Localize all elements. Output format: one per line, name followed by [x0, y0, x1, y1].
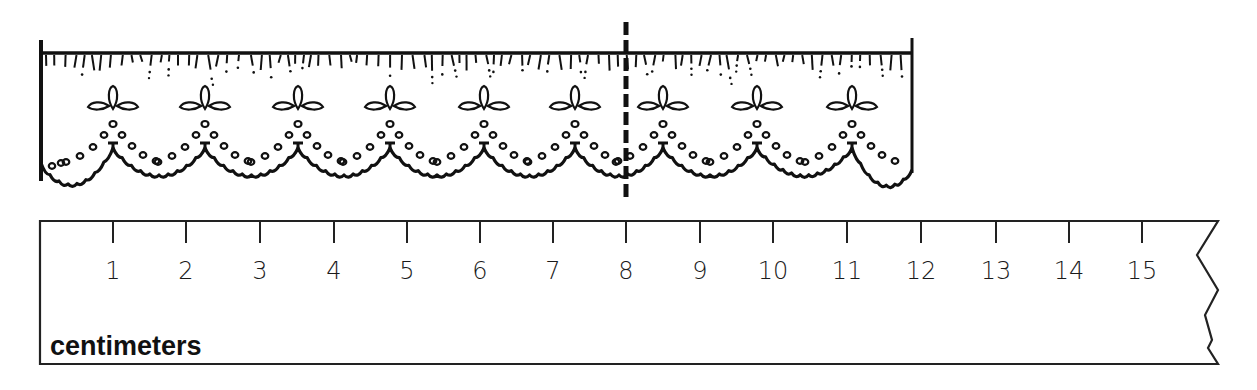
- fringe-dot: [289, 70, 292, 73]
- fringe-stroke: [74, 55, 76, 68]
- fringe-dot: [730, 83, 732, 85]
- fringe-dot: [729, 77, 732, 80]
- fringe-dot: [646, 73, 649, 76]
- fringe-dot: [690, 67, 693, 70]
- fringe-stroke: [528, 55, 530, 65]
- fringe-stroke: [783, 55, 785, 62]
- fringe-stroke: [509, 55, 511, 64]
- fringe-stroke: [279, 55, 281, 63]
- fringe-stroke: [737, 55, 738, 61]
- fringe-stroke: [681, 55, 683, 66]
- fringe-stroke: [329, 55, 330, 66]
- fringe-stroke: [821, 55, 822, 66]
- fringe-dot: [492, 71, 495, 74]
- fringe-dot: [583, 77, 585, 79]
- fringe-dot: [167, 68, 170, 71]
- fringe-dot: [431, 76, 434, 79]
- ruler-tick-label: 13: [981, 257, 1012, 285]
- fringe-dot: [488, 69, 491, 72]
- fringe-stroke: [356, 55, 357, 63]
- fringe-dot: [270, 76, 273, 79]
- fringe-stroke: [663, 55, 664, 62]
- ruler-tick-label: 8: [618, 257, 633, 285]
- fringe-stroke: [92, 55, 94, 70]
- fringe-stroke: [609, 55, 610, 71]
- fringe-dot: [489, 75, 491, 77]
- ruler-unit-label: centimeters: [50, 331, 202, 361]
- fringe-stroke: [832, 55, 834, 66]
- ruler-tick-label: 14: [1054, 257, 1085, 285]
- lace-ruler-diagram: 123456789101112131415 centimeters: [0, 0, 1257, 390]
- fringe-dot: [580, 71, 583, 74]
- fringe-dot: [148, 71, 151, 74]
- ruler-tick-label: 6: [472, 257, 487, 285]
- fringe-dot: [735, 70, 737, 72]
- fringe-dot: [454, 69, 457, 72]
- fringe-dot: [546, 70, 549, 73]
- fringe-stroke: [413, 55, 415, 69]
- ruler-tick-label: 15: [1127, 257, 1158, 285]
- fringe-stroke: [150, 55, 151, 66]
- fringe-stroke: [559, 55, 561, 70]
- fringe-stroke: [424, 55, 426, 67]
- fringe-stroke: [765, 55, 766, 62]
- fringe-dot: [455, 75, 457, 77]
- fringe-dot: [735, 64, 738, 67]
- ruler-tick-label: 5: [399, 257, 414, 285]
- fringe-stroke: [288, 55, 290, 66]
- fringe-stroke: [709, 55, 712, 66]
- lace-trim: [41, 38, 912, 188]
- ruler-tick-label: 2: [178, 257, 193, 285]
- fringe-stroke: [238, 55, 239, 61]
- fringe-stroke: [208, 55, 210, 70]
- fringe-stroke: [309, 55, 311, 67]
- fringe-dot: [210, 77, 213, 80]
- fringe-dot: [651, 70, 654, 73]
- fringe-stroke: [501, 55, 502, 66]
- fringe-stroke: [548, 55, 549, 65]
- fringe-stroke: [251, 55, 253, 66]
- fringe-stroke: [539, 55, 541, 70]
- fringe-stroke: [367, 55, 368, 65]
- fringe-stroke: [720, 55, 721, 65]
- fringe-stroke: [341, 55, 342, 68]
- fringe-stroke: [756, 55, 757, 61]
- fringe-dot: [148, 77, 150, 79]
- fringe-stroke: [83, 55, 85, 68]
- fringe-dot: [819, 70, 822, 73]
- fringe-dot: [749, 68, 752, 71]
- fringe-stroke: [644, 55, 646, 65]
- fringe-stroke: [840, 55, 841, 65]
- fringe-stroke: [653, 55, 655, 65]
- fringe-stroke: [452, 55, 454, 66]
- fringe-stroke: [901, 55, 902, 70]
- fringe-dot: [901, 75, 904, 78]
- fringe-stroke: [261, 55, 262, 70]
- fringe-dot: [301, 67, 304, 70]
- fringe-stroke: [122, 55, 123, 66]
- ruler-tick-label: 12: [906, 257, 937, 285]
- fringe-dot: [441, 73, 444, 76]
- fringe-dot: [167, 74, 169, 76]
- fringe-dot: [859, 66, 862, 69]
- fringe-dot: [819, 76, 821, 78]
- fringe-stroke: [776, 55, 778, 66]
- ruler-tick-label: 3: [252, 257, 267, 285]
- lace-fringe: [46, 55, 903, 86]
- fringe-stroke: [132, 55, 133, 63]
- fringe-stroke: [747, 55, 749, 64]
- fringe-dot: [882, 75, 884, 77]
- fringe-dot: [690, 74, 692, 76]
- fringe-dot: [252, 71, 255, 74]
- fringe-stroke: [270, 55, 271, 68]
- fringe-stroke: [812, 55, 813, 70]
- fringe-stroke: [110, 55, 111, 68]
- fringe-stroke: [881, 55, 882, 65]
- fringe-stroke: [586, 55, 588, 64]
- ruler-tick-label: 10: [758, 257, 789, 285]
- fringe-stroke: [196, 55, 198, 68]
- fringe-dot: [720, 73, 723, 76]
- fringe-dot: [584, 71, 587, 74]
- fringe-dot: [237, 66, 240, 69]
- fringe-dot: [389, 74, 392, 77]
